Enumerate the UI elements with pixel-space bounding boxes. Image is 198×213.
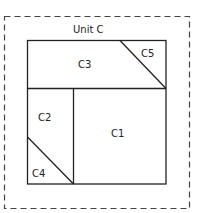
region-label-c2: C2 (38, 112, 51, 123)
unit-diagram: Unit C C3 C5 C2 C1 C4 (0, 0, 198, 213)
region-label-c1: C1 (111, 128, 124, 139)
unit-label: Unit C (73, 24, 104, 35)
region-label-c4: C4 (32, 168, 45, 179)
region-label-c3: C3 (78, 59, 91, 70)
unit-boundary-dashed (5, 17, 190, 209)
region-label-c5: C5 (141, 48, 154, 59)
